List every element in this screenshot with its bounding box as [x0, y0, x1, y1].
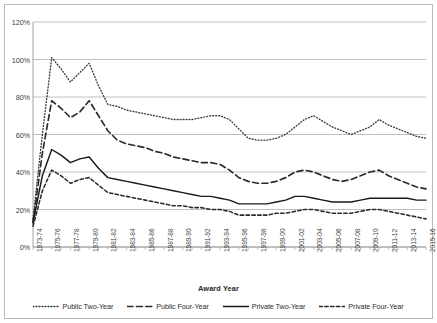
- x-axis-title: Award Year: [0, 284, 437, 293]
- legend-label: Private Two-Year: [252, 302, 306, 311]
- x-axis-tick-label: 2011-12: [391, 229, 398, 252]
- x-axis-tick-label: 1991-92: [204, 229, 211, 253]
- x-axis-tick-label: 2007-08: [354, 229, 361, 253]
- x-axis-tick-label: 1993-94: [223, 229, 230, 253]
- legend-label: Private Four-Year: [348, 302, 403, 311]
- chart-plot-area: [0, 0, 437, 323]
- y-axis-tick-label: 80%: [0, 93, 30, 102]
- legend-key-solid: [223, 303, 249, 310]
- x-axis-tick-label: 1995-96: [241, 229, 248, 253]
- legend-item-public-two-year[interactable]: Public Two-Year: [33, 302, 113, 311]
- legend-item-private-four-year[interactable]: Private Four-Year: [319, 302, 403, 311]
- series-line-public-four-year: [33, 101, 426, 223]
- legend-item-private-two-year[interactable]: Private Two-Year: [223, 302, 306, 311]
- y-axis-tick-label: 0%: [0, 243, 30, 252]
- legend-key-dashed: [127, 303, 153, 310]
- y-axis-tick-label: 40%: [0, 168, 30, 177]
- x-axis-tick-label: 1989-90: [185, 229, 192, 253]
- x-axis-tick-label: 2015-16: [429, 229, 436, 253]
- line-chart-svg: [0, 0, 437, 323]
- x-axis-tick-label: 1973-74: [36, 229, 43, 253]
- y-axis-tick-label: 20%: [0, 206, 30, 215]
- x-axis-tick-label: 2009-10: [372, 229, 379, 253]
- y-axis-tick-label: 100%: [0, 56, 30, 65]
- x-axis-tick-label: 1997-98: [260, 229, 267, 253]
- x-axis-tick-label: 1975-76: [54, 229, 61, 253]
- y-axis-tick-label: 120%: [0, 18, 30, 27]
- legend-item-public-four-year[interactable]: Public Four-Year: [127, 302, 208, 311]
- x-axis-tick-label: 2005-06: [335, 229, 342, 253]
- legend-key-dotted: [33, 303, 59, 310]
- chart-legend: Public Two-YearPublic Four-YearPrivate T…: [0, 299, 437, 313]
- legend-key-shortdash: [319, 303, 345, 310]
- x-axis-tick-label: 2013-14: [410, 229, 417, 253]
- legend-label: Public Four-Year: [156, 302, 208, 311]
- x-axis-tick-label: 1983-84: [129, 229, 136, 253]
- x-axis-tick-label: 1979-80: [92, 229, 99, 253]
- x-axis-tick-label: 1987-88: [167, 229, 174, 253]
- x-axis-tick-label: 1981-82: [110, 229, 117, 253]
- legend-label: Public Two-Year: [62, 302, 113, 311]
- x-axis-tick-label: 1999-00: [279, 229, 286, 253]
- x-axis-tick-label: 2003-04: [316, 229, 323, 253]
- series-line-public-two-year: [33, 58, 426, 219]
- chart-screenshot: 0%20%40%60%80%100%120% 1973-741975-76197…: [0, 0, 437, 323]
- x-axis-tick-label: 2001-02: [298, 229, 305, 253]
- x-axis-tick-label: 1977-78: [73, 229, 80, 253]
- x-axis-tick-label: 1985-86: [148, 229, 155, 253]
- y-axis-tick-label: 60%: [0, 131, 30, 140]
